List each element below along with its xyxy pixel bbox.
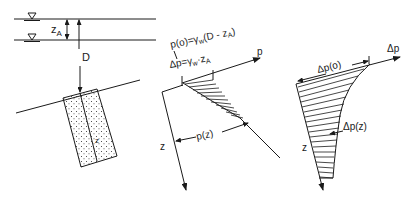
- z-axis: [162, 92, 186, 190]
- d-label: D: [82, 51, 90, 63]
- middle-panel: p z p(z) p(o)=γw(D - zA) Δp=γw·zA: [160, 25, 280, 190]
- p0-formula: p(o)=γw(D - zA): [169, 25, 236, 50]
- dpz-label: Δp(z): [343, 121, 367, 132]
- dp0-label: Δp(o): [316, 58, 342, 75]
- diagram-canvas: zA D z p: [0, 0, 412, 201]
- z-axis-right-label: z: [302, 142, 307, 153]
- z-axis-label: z: [160, 141, 165, 152]
- pressure-curve: [183, 83, 280, 158]
- dp0-arrow-right: [352, 61, 368, 65]
- pz-label: p(z): [195, 128, 214, 142]
- p-axis-label: p: [257, 46, 263, 57]
- right-panel: Δp z Δp(o) Δp(z): [296, 43, 400, 190]
- soil-column: [63, 89, 117, 167]
- pz-arrow-right: [222, 123, 248, 132]
- pz-arrow-left: [176, 137, 196, 141]
- column-z-label: z: [95, 136, 99, 145]
- za-label: zA: [51, 23, 63, 38]
- dp-formula: Δp=γw·zA: [168, 52, 211, 71]
- left-panel: zA D z: [14, 13, 156, 167]
- dp-axis-label: Δp: [387, 43, 400, 54]
- z-axis-top: [162, 85, 183, 92]
